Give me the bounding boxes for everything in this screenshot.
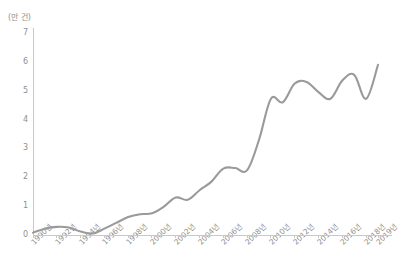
data-series-line [33,65,378,234]
line-chart: (만 건) 01234567 1990년1992년1994년1996년1998년… [0,0,399,278]
plot-area [0,0,399,278]
